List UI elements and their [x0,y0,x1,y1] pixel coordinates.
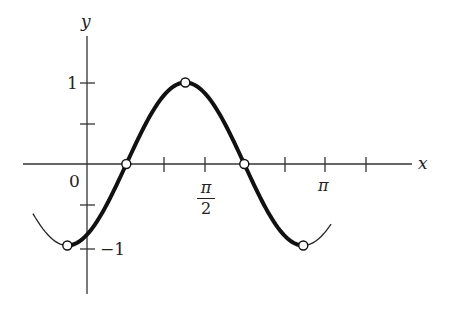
point-marker [122,160,131,169]
point-marker [63,241,72,250]
y-tick-label-1: 1 [67,75,78,92]
x-tick-label-pi-half: π 2 [196,180,216,217]
y-tick-label-neg1: −1 [100,241,125,258]
x-tick-label-pi: π [318,178,329,194]
sine-graph [0,0,452,311]
origin-label: 0 [69,173,80,190]
point-marker [299,241,308,250]
point-marker [181,78,190,87]
x-axis-label: x [418,155,428,172]
y-axis-label: y [81,13,91,30]
point-marker [240,160,249,169]
